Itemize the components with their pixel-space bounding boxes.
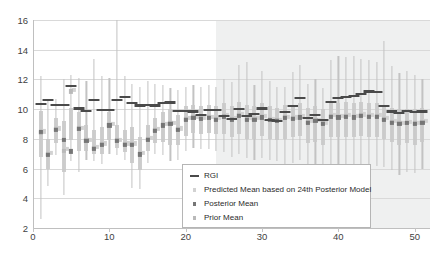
x-axis-line	[33, 228, 430, 229]
inner-band	[397, 109, 401, 145]
y-axis-line	[33, 20, 34, 228]
chart-legend: RGI Predicted Mean based on 24th Posteri…	[182, 164, 371, 228]
rgi-marker	[310, 114, 321, 116]
x-axis-tick-label: 10	[104, 231, 115, 242]
inner-band	[77, 112, 81, 151]
inner-band	[367, 103, 371, 137]
chart-figure: 246810121416 01020304050 RGI Predicted M…	[0, 0, 446, 258]
inner-band	[252, 106, 256, 139]
gridline	[33, 20, 430, 21]
inner-band	[405, 109, 409, 143]
rgi-marker	[89, 99, 100, 101]
posterior-mean-marker	[420, 120, 424, 124]
rgi-marker	[249, 113, 260, 115]
rgi-marker	[43, 99, 54, 101]
rgi-marker	[379, 105, 390, 107]
posterior-mean-marker	[245, 117, 249, 121]
y-axis-tick-label: 16	[2, 15, 28, 26]
posterior-mean-marker	[352, 115, 356, 119]
rgi-marker	[119, 95, 130, 97]
y-axis-tick-label: 6	[2, 163, 28, 174]
posterior-mean-marker	[130, 143, 134, 147]
rgi-marker	[188, 110, 199, 112]
inner-band	[336, 103, 340, 137]
rgi-marker	[218, 115, 229, 117]
posterior-mean-marker	[115, 139, 119, 143]
posterior-mean-marker	[123, 143, 127, 147]
inner-band	[352, 103, 356, 137]
posterior-mean-marker	[283, 116, 287, 120]
rgi-marker	[195, 114, 206, 116]
rgi-marker	[417, 110, 428, 112]
x-axis-tick-label: 50	[409, 231, 420, 242]
rgi-marker	[66, 85, 77, 87]
legend-label: Predicted Mean based on 24th Posterior M…	[204, 186, 371, 194]
legend-item-posterior-mean: Posterior Mean	[189, 197, 365, 211]
posterior-mean-marker	[252, 117, 256, 121]
rgi-marker	[348, 95, 359, 97]
rgi-marker	[241, 115, 252, 117]
rgi-marker	[272, 120, 283, 122]
posterior-mean-marker	[207, 116, 211, 120]
legend-label: Prior Mean	[204, 214, 243, 222]
y-axis-tick-label: 8	[2, 133, 28, 144]
inner-band	[344, 102, 348, 138]
inner-band	[230, 106, 234, 137]
posterior-mean-marker	[321, 122, 325, 126]
inner-band	[321, 109, 325, 145]
rgi-marker	[318, 119, 329, 121]
posterior-mean-marker	[145, 138, 149, 142]
rgi-marker	[35, 103, 46, 105]
rgi-marker	[257, 107, 268, 109]
inner-band	[413, 109, 417, 145]
posterior-mean-marker	[107, 123, 111, 127]
x-axis-tick-label: 40	[333, 231, 344, 242]
rgi-marker	[371, 91, 382, 93]
legend-label: RGI	[204, 172, 218, 180]
posterior-mean-marker	[69, 149, 73, 153]
rgi-marker	[58, 104, 69, 106]
posterior-mean-marker	[382, 117, 386, 121]
inner-band	[237, 102, 241, 135]
rgi-marker	[302, 117, 313, 119]
posterior-mean-marker	[153, 129, 157, 133]
rgi-marker	[394, 112, 405, 114]
rgi-marker	[279, 111, 290, 113]
inner-band	[291, 105, 295, 138]
posterior-mean-marker	[176, 128, 180, 132]
y-axis-tick-label: 2	[2, 223, 28, 234]
x-axis-tick-label: 30	[257, 231, 268, 242]
x-axis-tick-label: 0	[30, 231, 35, 242]
posterior-mean-marker	[54, 128, 58, 132]
y-axis-tick-label: 10	[2, 104, 28, 115]
posterior-mean-marker	[39, 130, 43, 134]
rgi-marker	[111, 99, 122, 101]
gridline	[33, 50, 430, 51]
rgi-marker	[211, 109, 222, 111]
posterior-mean-marker	[413, 122, 417, 126]
legend-marker-line-icon	[189, 175, 200, 177]
rgi-marker	[234, 108, 245, 110]
rgi-marker	[287, 105, 298, 107]
posterior-mean-marker	[191, 116, 195, 120]
inner-band	[168, 109, 172, 145]
rgi-marker	[165, 101, 176, 103]
rgi-marker	[226, 118, 237, 120]
legend-item-prior-mean: Prior Mean	[189, 211, 365, 225]
posterior-mean-marker	[61, 138, 65, 142]
rgi-marker	[325, 101, 336, 103]
inner-band	[283, 105, 287, 139]
rgi-marker	[104, 109, 115, 111]
posterior-mean-marker	[100, 143, 104, 147]
posterior-mean-marker	[184, 117, 188, 121]
rgi-marker	[150, 104, 161, 106]
x-axis-tick-label: 20	[180, 231, 191, 242]
posterior-mean-marker	[168, 122, 172, 126]
posterior-mean-marker	[46, 153, 50, 157]
posterior-mean-marker	[138, 152, 142, 156]
inner-band	[420, 108, 424, 142]
posterior-mean-marker	[397, 122, 401, 126]
legend-marker-square-icon	[189, 188, 200, 192]
y-axis-tick-label: 4	[2, 193, 28, 204]
legend-marker-square-icon	[189, 216, 200, 220]
